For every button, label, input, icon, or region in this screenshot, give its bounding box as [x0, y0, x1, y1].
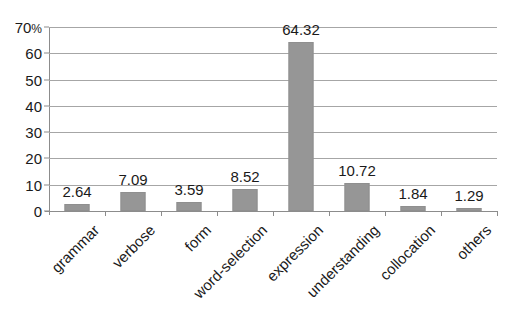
bar[interactable] [233, 189, 258, 211]
bar[interactable] [121, 192, 146, 211]
bar-slot: 2.64 [49, 27, 105, 211]
bar-value-label: 1.29 [454, 188, 483, 203]
y-axis-tick-label: 20 [25, 151, 42, 166]
category-label: grammar [49, 222, 102, 275]
y-axis-tick-label: 60 [25, 46, 42, 61]
bar-value-label: 1.84 [398, 186, 427, 201]
bar[interactable] [457, 208, 482, 211]
category-label: verbose [109, 222, 157, 270]
bar[interactable] [177, 202, 202, 211]
bar-value-label: 64.32 [282, 22, 320, 37]
bar-slot: 7.09 [105, 27, 161, 211]
y-axis-tick-label: 10 [25, 177, 42, 192]
y-axis-tick-label: 30 [25, 125, 42, 140]
bar[interactable] [289, 42, 314, 211]
x-axis-line [45, 211, 497, 212]
percent-unit-label: % [31, 22, 42, 36]
bar-slot: 10.72 [329, 27, 385, 211]
bar-slot: 8.52 [217, 27, 273, 211]
bar-value-label: 10.72 [338, 163, 376, 178]
bar-value-label: 8.52 [230, 169, 259, 184]
y-axis-tick-label: 40 [25, 98, 42, 113]
bar-slot: 1.84 [385, 27, 441, 211]
bar-slot: 1.29 [441, 27, 497, 211]
x-axis-tick-mark [273, 211, 274, 216]
bar-slot: 64.32 [273, 27, 329, 211]
category-label: collocation [377, 222, 438, 283]
x-axis-tick-mark [385, 211, 386, 216]
plot-area: 010203040506070% 2.647.093.598.5264.3210… [49, 27, 497, 211]
category-label: form [182, 222, 214, 254]
x-axis-tick-mark [161, 211, 162, 216]
bar[interactable] [65, 204, 90, 211]
y-axis-tick-label: 50 [25, 72, 42, 87]
category-label: others [454, 222, 494, 262]
bar-value-label: 3.59 [174, 182, 203, 197]
x-axis-tick-mark [105, 211, 106, 216]
x-axis-tick-mark [497, 211, 498, 216]
bar[interactable] [345, 183, 370, 211]
x-axis-tick-mark [329, 211, 330, 216]
bar-value-label: 7.09 [118, 172, 147, 187]
bar-slot: 3.59 [161, 27, 217, 211]
y-axis-tick-label: 70% [15, 20, 42, 35]
y-axis-tick-label: 0 [34, 204, 42, 219]
bar-value-label: 2.64 [62, 184, 91, 199]
bar[interactable] [401, 206, 426, 211]
bar-chart: 010203040506070% 2.647.093.598.5264.3210… [0, 0, 512, 319]
x-axis-tick-mark [441, 211, 442, 216]
x-axis-tick-mark [217, 211, 218, 216]
